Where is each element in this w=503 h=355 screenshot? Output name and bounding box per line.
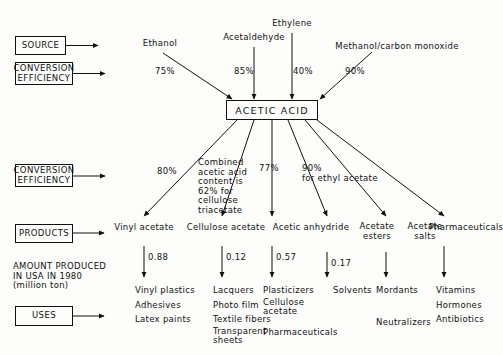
use-item: Solvents — [333, 283, 372, 298]
efficiency-methanol-carbon-monoxide: 90% — [345, 66, 365, 76]
efficiency-acetaldehyde: 85% — [234, 66, 254, 76]
use-item: Pharmaceuticals — [263, 317, 338, 340]
key-box-source-label: SOURCE — [22, 41, 60, 50]
key-box-source[interactable]: SOURCE — [15, 36, 66, 55]
feed-ethanol — [163, 53, 232, 99]
branch-note-cellulose-acetate: Combined acetic acid content is 62% for … — [198, 158, 247, 215]
acetic-acid-node[interactable]: ACETIC ACID — [226, 100, 318, 120]
key-box-uses-label: USES — [32, 311, 56, 320]
product-label-vinyl-acetate[interactable]: Vinyl acetate — [114, 222, 174, 232]
uses-acetate-salts: Mordants Neutralizers — [376, 283, 431, 329]
efficiency-ethanol: 75% — [155, 66, 175, 76]
product-label-cellulose-acetate[interactable]: Cellulose acetate — [187, 222, 266, 232]
amount-acetate-esters: 0.17 — [331, 258, 351, 268]
amount-acetic-anhydride: 0.57 — [276, 252, 296, 262]
use-item: Cellulose acetate — [263, 298, 338, 317]
use-item: Vinyl plastics — [135, 283, 195, 298]
branch-note-acetic-anhydride: 77% — [259, 164, 279, 174]
source-label-ethylene: Ethylene — [272, 18, 312, 28]
efficiency-ethylene: 40% — [293, 66, 313, 76]
use-item: Plasticizers — [263, 283, 338, 298]
product-label-acetate-esters[interactable]: Acetate esters — [360, 222, 395, 242]
use-item: Hormones — [436, 298, 484, 313]
product-label-pharmaceuticals[interactable]: Pharmaceuticals — [429, 222, 503, 232]
key-box-conversion-efficiency-top-label: CONVERSION EFFICIENCY — [13, 64, 74, 82]
uses-acetate-esters: Solvents — [333, 283, 372, 298]
branch-note-acetate-esters: 90% for ethyl acetate — [302, 164, 378, 183]
key-box-uses[interactable]: USES — [15, 306, 73, 326]
key-box-products[interactable]: PRODUCTS — [15, 224, 73, 243]
use-item: Neutralizers — [376, 298, 431, 330]
amount-cellulose-acetate: 0.12 — [226, 252, 246, 262]
use-item: Antibiotics — [436, 312, 484, 327]
uses-acetic-anhydride: Plasticizers Cellulose acetate Pharmaceu… — [263, 283, 338, 339]
uses-vinyl-acetate: Vinyl plastics Adhesives Latex paints — [135, 283, 195, 327]
amount-produced-caption: AMOUNT PRODUCED IN USA IN 1980 (million … — [13, 262, 106, 291]
acetic-acid-node-label: ACETIC ACID — [235, 105, 309, 116]
uses-pharmaceuticals: Vitamins Hormones Antibiotics — [436, 283, 484, 327]
amount-vinyl-acetate: 0.88 — [148, 252, 168, 262]
use-item: Vitamins — [436, 283, 484, 298]
source-label-acetaldehyde: Acetaldehyde — [223, 32, 285, 42]
use-item: Latex paints — [135, 312, 195, 327]
use-item: Adhesives — [135, 298, 195, 313]
use-item: Mordants — [376, 283, 431, 298]
branch-note-vinyl-acetate: 80% — [157, 167, 177, 177]
key-box-products-label: PRODUCTS — [19, 229, 69, 238]
source-label-ethanol: Ethanol — [143, 38, 177, 48]
key-box-conversion-efficiency-mid-label: CONVERSION EFFICIENCY — [13, 166, 74, 184]
diagram-canvas: SOURCE CONVERSION EFFICIENCY CONVERSION … — [0, 0, 503, 355]
source-label-methanol-carbon-monoxide: Methanol/carbon monoxide — [335, 41, 458, 51]
key-box-conversion-efficiency-mid[interactable]: CONVERSION EFFICIENCY — [15, 164, 73, 187]
key-box-conversion-efficiency-top[interactable]: CONVERSION EFFICIENCY — [15, 62, 73, 85]
product-label-acetic-anhydride[interactable]: Acetic anhydride — [273, 222, 349, 232]
